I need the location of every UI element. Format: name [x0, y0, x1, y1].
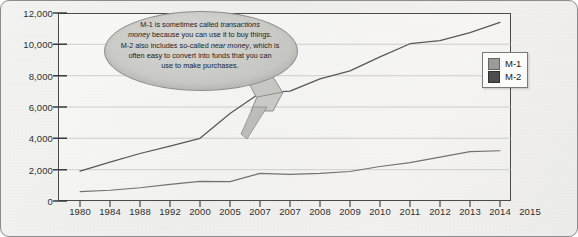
y-tick-10000: 10,000: [7, 39, 53, 50]
x-tick-10: 2010: [369, 206, 391, 217]
legend-entry-m1: M-1: [488, 57, 521, 70]
chart-legend: M-1 M-2: [482, 52, 528, 88]
legend-label-m1: M-1: [505, 59, 521, 69]
y-tick-4000: 4,000: [7, 133, 53, 144]
x-tick-7: 2007: [279, 206, 301, 217]
x-tick-9: 2009: [339, 206, 361, 217]
y-axis-ticks: [53, 13, 67, 201]
legend-entry-m2: M-2: [488, 70, 521, 83]
y-tick-0: 0: [7, 196, 53, 207]
series-line-m1: [80, 151, 500, 192]
x-tick-3: 1992: [159, 206, 181, 217]
legend-swatch-m1: [488, 58, 500, 70]
x-tick-14: 2014: [489, 206, 511, 217]
x-tick-6: 2007: [249, 206, 271, 217]
legend-swatch-m2: [488, 71, 500, 83]
x-tick-2: 1988: [129, 206, 151, 217]
legend-label-m2: M-2: [505, 72, 521, 82]
money-supply-figure: 12,000 10,000 8,000 6,000 4,000 2,000 0: [0, 0, 578, 237]
x-tick-11: 2011: [400, 206, 421, 217]
plot-canvas: [58, 13, 511, 201]
x-tick-0: 1980: [69, 206, 91, 217]
x-tick-8: 2008: [309, 206, 331, 217]
x-tick-13: 2013: [459, 206, 481, 217]
x-tick-5: 2005: [219, 206, 241, 217]
x-tick-12: 2012: [429, 206, 451, 217]
y-axis: 12,000 10,000 8,000 6,000 4,000 2,000 0: [1, 1, 53, 237]
gridlines: [58, 44, 511, 169]
x-tick-15: 2015: [519, 206, 541, 217]
x-axis: 1980 1984 1988 1992 2000 2005 2007 2007 …: [1, 206, 578, 228]
x-tick-1: 1984: [99, 206, 121, 217]
y-tick-12000: 12,000: [7, 8, 53, 19]
series-line-m2: [80, 22, 500, 171]
y-tick-6000: 6,000: [7, 102, 53, 113]
y-tick-2000: 2,000: [7, 164, 53, 175]
y-tick-8000: 8,000: [7, 70, 53, 81]
x-tick-4: 2000: [189, 206, 211, 217]
